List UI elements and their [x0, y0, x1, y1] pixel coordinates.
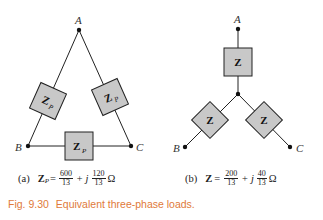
delta-impedance-bc: Z P [65, 132, 93, 160]
wye-eq-tag: (b) [185, 173, 197, 184]
wye-label-a: A [233, 13, 241, 25]
svg-text:Z: Z [73, 140, 80, 152]
delta-impedance-ab: Z P [30, 83, 67, 120]
node-a [77, 28, 81, 32]
wye-eq-symbol: Z [205, 173, 212, 184]
wye-eq-real-fraction: 200 13 [224, 170, 238, 187]
wye-impedance-a: Z [224, 48, 252, 76]
wye-eq-plus-j: + j [241, 173, 254, 184]
delta-impedance-ac: Z P [92, 79, 129, 116]
wye-node-b [183, 145, 187, 149]
wye-node-c [288, 145, 292, 149]
wye-equation: (b) Z = 200 13 + j 40 13 Ω [185, 170, 277, 187]
delta-eq-symbol: Z [38, 173, 45, 184]
figure-number: Fig. 9.30 [8, 198, 49, 210]
node-c [129, 144, 133, 148]
delta-eq-real-fraction: 600 13 [59, 170, 73, 187]
wye-label-c: C [296, 142, 304, 154]
svg-text:Z: Z [260, 114, 267, 126]
delta-eq-unit: Ω [108, 173, 116, 184]
wye-node-a [236, 27, 240, 31]
node-b [26, 144, 30, 148]
wye-eq-imag-fraction: 40 13 [257, 170, 267, 187]
delta-eq-equals: = [50, 173, 56, 184]
figure-title: Equivalent three-phase loads. [56, 198, 195, 210]
svg-text:P: P [81, 147, 87, 155]
wye-neutral-node [236, 92, 240, 96]
svg-text:Z: Z [234, 56, 241, 68]
delta-eq-subscript: P [45, 177, 49, 185]
wye-label-b: B [173, 142, 180, 154]
delta-eq-plus-j: + j [76, 173, 89, 184]
figure-caption: Fig. 9.30Equivalent three-phase loads. [8, 198, 202, 210]
wye-eq-equals: = [214, 173, 220, 184]
delta-label-b: B [15, 141, 22, 153]
three-phase-loads-diagram: A B C Z P Z P Z P A B C Z Z [0, 0, 323, 220]
wye-eq-unit: Ω [269, 173, 277, 184]
delta-label-c: C [136, 141, 144, 153]
delta-equation: (a) Z P = 600 13 + j 120 13 Ω [18, 170, 115, 187]
delta-eq-tag: (a) [18, 173, 30, 184]
delta-eq-imag-fraction: 120 13 [92, 170, 106, 187]
delta-label-a: A [74, 14, 82, 26]
svg-text:Z: Z [206, 114, 213, 126]
